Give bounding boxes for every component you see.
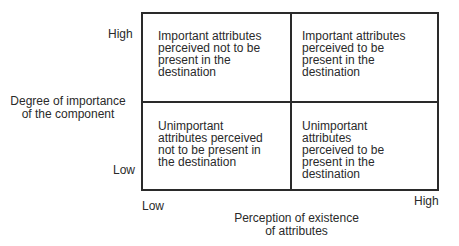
quadrant-bottom-right: Unimportant attributes perceived to be p… (302, 120, 384, 180)
quadrant-top-left: Important attributes perceived not to be… (158, 30, 261, 78)
x-axis-title: Perception of existence of attributes (229, 212, 364, 238)
y-axis-high-label: High (108, 28, 133, 41)
quadrant-top-right: Important attributes perceived to be pre… (302, 30, 405, 78)
x-axis-low-label: Low (142, 200, 164, 213)
quadrant-grid: Important attributes perceived not to be… (141, 12, 439, 191)
horizontal-divider (143, 101, 437, 103)
text-line: the destination (158, 156, 263, 168)
text-line: destination (302, 66, 405, 78)
text-line: destination (158, 66, 261, 78)
text-line: destination (302, 168, 384, 180)
y-axis-low-label: Low (113, 164, 135, 177)
x-axis-title-line2: of attributes (229, 225, 364, 238)
y-axis-title-line2: of the component (0, 108, 136, 121)
quadrant-bottom-left: Unimportant attributes perceived not to … (158, 120, 263, 168)
x-axis-high-label: High (414, 195, 439, 208)
y-axis-title: Degree of importance of the component (0, 95, 136, 121)
